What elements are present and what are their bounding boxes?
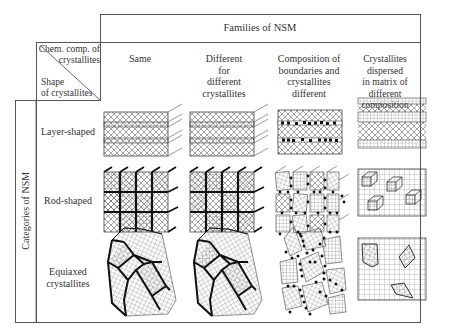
equiaxed-dispersed-illustration — [358, 238, 426, 300]
equiaxed-same-illustration — [108, 228, 176, 316]
layer-different-illustration — [190, 104, 268, 156]
layer-same-illustration — [104, 104, 182, 156]
equiaxed-different-illustration — [194, 228, 262, 316]
illustrations — [0, 0, 450, 332]
rod-composition-illustration — [275, 166, 349, 235]
corner-diagonal — [41, 46, 100, 100]
rod-same-illustration — [104, 167, 178, 232]
layer-composition-illustration — [278, 110, 342, 154]
layer-dispersed-illustration — [358, 98, 426, 148]
rod-different-illustration — [190, 167, 264, 232]
rod-dispersed-illustration — [358, 169, 426, 216]
equiaxed-composition-illustration — [280, 226, 346, 316]
